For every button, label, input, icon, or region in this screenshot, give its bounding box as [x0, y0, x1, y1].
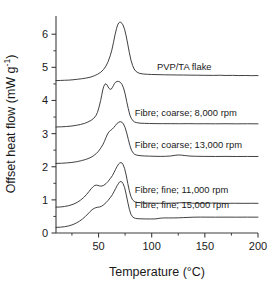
- x-tick-label: 200: [249, 240, 267, 252]
- x-axis-tick-labels: 50100150200: [92, 240, 267, 252]
- series-label-3: Fibre; coarse; 13,000 rpm: [135, 139, 243, 150]
- x-tick-label: 150: [196, 240, 214, 252]
- y-tick-label: 4: [42, 94, 48, 106]
- y-tick-label: 2: [42, 161, 48, 173]
- y-tick-label: 3: [42, 128, 48, 140]
- data-curves: [56, 22, 258, 227]
- series-label-4: Fibre; fine; 11,000 rpm: [135, 184, 229, 195]
- y-axis-tick-labels: 0123456: [42, 28, 48, 239]
- y-tick-label: 6: [42, 28, 48, 40]
- y-tick-label: 5: [42, 61, 48, 73]
- curve-2: [56, 81, 258, 127]
- series-label-5: Fibre; fine; 15,000 rpm: [135, 199, 230, 210]
- y-tick-label: 0: [42, 227, 48, 239]
- series-label-1: PVP/TA flake: [157, 61, 212, 72]
- x-tick-label: 100: [143, 240, 161, 252]
- svg-text:Offset heat flow (mW g-1): Offset heat flow (mW g-1): [2, 55, 18, 194]
- y-tick-label: 1: [42, 194, 48, 206]
- y-axis-title: Offset heat flow (mW g-1): [2, 55, 18, 194]
- dsc-thermogram-figure: 0123456 50100150200 PVP/TA flakeFibre; c…: [0, 0, 275, 283]
- x-axis-title: Temperature (°C): [109, 265, 205, 279]
- curve-1: [56, 22, 258, 80]
- series-labels: PVP/TA flakeFibre; coarse; 8,000 rpmFibr…: [135, 61, 243, 211]
- x-tick-label: 50: [92, 240, 104, 252]
- chart-canvas: 0123456 50100150200 PVP/TA flakeFibre; c…: [0, 0, 275, 283]
- y-axis-title-tail: ): [4, 55, 18, 59]
- series-label-2: Fibre; coarse; 8,000 rpm: [135, 107, 237, 118]
- y-axis-title-main: Offset heat flow (mW g: [4, 66, 18, 193]
